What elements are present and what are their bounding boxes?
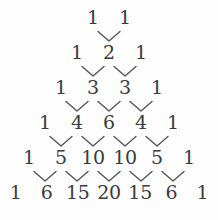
triangle-number: 1 xyxy=(109,6,141,28)
triangle-number: 10 xyxy=(77,146,109,168)
triangle-row: 1615201561 xyxy=(0,181,218,203)
triangle-number: 6 xyxy=(156,181,187,203)
triangle-row: 14641 xyxy=(0,111,218,133)
triangle-number: 15 xyxy=(62,181,93,203)
triangle-number: 2 xyxy=(93,41,125,63)
triangle-number: 1 xyxy=(29,111,61,133)
triangle-row: 15101051 xyxy=(0,146,218,168)
triangle-row: 1331 xyxy=(0,76,218,98)
triangle-number: 5 xyxy=(45,146,77,168)
pascals-triangle-figure: 11121133114641151010511615201561 xyxy=(0,0,218,220)
triangle-number: 20 xyxy=(93,181,124,203)
triangle-number: 6 xyxy=(93,111,125,133)
triangle-number: 1 xyxy=(157,111,189,133)
triangle-number: 1 xyxy=(45,76,77,98)
triangle-row: 11 xyxy=(0,6,218,28)
triangle-number: 1 xyxy=(61,41,93,63)
triangle-number: 1 xyxy=(0,181,31,203)
triangle-number: 4 xyxy=(125,111,157,133)
triangle-number: 3 xyxy=(109,76,141,98)
triangle-number: 1 xyxy=(187,181,218,203)
triangle-number: 3 xyxy=(77,76,109,98)
triangle-number: 1 xyxy=(13,146,45,168)
triangle-number: 1 xyxy=(125,41,157,63)
triangle-number: 6 xyxy=(31,181,62,203)
triangle-number: 4 xyxy=(61,111,93,133)
triangle-number: 10 xyxy=(109,146,141,168)
triangle-row: 121 xyxy=(0,41,218,63)
triangle-number: 15 xyxy=(125,181,156,203)
triangle-number: 5 xyxy=(141,146,173,168)
triangle-number: 1 xyxy=(141,76,173,98)
triangle-number: 1 xyxy=(173,146,205,168)
triangle-number: 1 xyxy=(77,6,109,28)
